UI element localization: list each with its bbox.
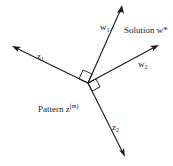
pattern-label: Pattern z(m) [38,103,78,114]
weight-space-diagram: w1 w2 z1 z2 Solution w* Pattern z(m) [0,0,173,166]
label-z2: z2 [112,122,119,133]
label-w2: w2 [138,59,148,70]
arrowhead-z1 [12,46,21,52]
label-w1: w1 [100,22,110,33]
right-angle-marker-w1-z1 [79,70,92,83]
vector-w2 [88,45,159,83]
arrowhead-z2 [119,148,125,157]
vector-z1 [12,46,88,83]
right-angle-marker-w2-z2 [88,79,100,91]
label-z1: z1 [37,51,44,62]
solution-label: Solution w* [124,25,168,35]
vector-z2 [88,83,125,157]
vector-w1 [88,5,124,83]
arrowhead-w1 [117,5,124,14]
arrowhead-w2 [150,45,159,51]
